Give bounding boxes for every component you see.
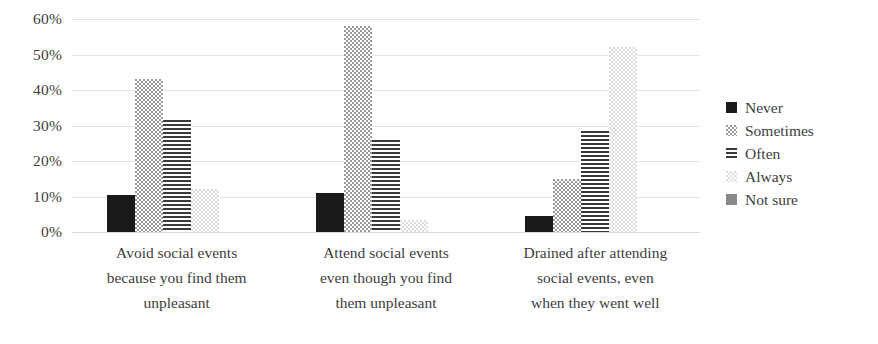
category-label-line: social events, even: [485, 265, 706, 290]
legend-item-sometimes[interactable]: Sometimes: [726, 119, 876, 142]
swatch-often-icon: [726, 148, 737, 159]
bar-sometimes[interactable]: [135, 79, 163, 232]
bar-always[interactable]: [191, 189, 219, 232]
legend-item-never[interactable]: Never: [726, 96, 876, 119]
plot-area: [72, 19, 700, 232]
y-axis-tick-label: 30%: [2, 118, 62, 133]
bar-group: [491, 19, 700, 232]
category-label-line: because you find them: [66, 265, 287, 290]
bar-groups: [72, 19, 700, 232]
legend-item-label: Often: [745, 145, 780, 162]
category-label: Drained after attendingsocial events, ev…: [485, 240, 706, 315]
y-axis-tick-label: 60%: [2, 11, 62, 26]
bar-chart: 60%50%40%30%20%10%0% Avoid social events…: [0, 0, 878, 344]
category-label-line: them unpleasant: [275, 290, 496, 315]
category-label-line: Attend social events: [275, 240, 496, 265]
swatch-always-icon: [726, 171, 737, 182]
category-label-line: Avoid social events: [66, 240, 287, 265]
bar-always[interactable]: [609, 47, 637, 232]
legend-item-always[interactable]: Always: [726, 165, 876, 188]
bar-group: [72, 19, 281, 232]
legend-item-often[interactable]: Often: [726, 142, 876, 165]
bar-never[interactable]: [107, 195, 135, 232]
category-label-line: when they went well: [485, 290, 706, 315]
category-label-line: Drained after attending: [485, 240, 706, 265]
category-label-line: even though you find: [275, 265, 496, 290]
y-axis-tick-label: 0%: [2, 224, 62, 239]
bar-sometimes[interactable]: [553, 179, 581, 232]
bar-always[interactable]: [400, 220, 428, 232]
category-label: Attend social eventseven though you find…: [275, 240, 496, 315]
bar-often[interactable]: [581, 131, 609, 232]
y-axis-tick-label: 20%: [2, 153, 62, 168]
legend-item-label: Not sure: [745, 191, 798, 208]
swatch-not-sure-icon: [726, 194, 737, 205]
swatch-sometimes-icon: [726, 125, 737, 136]
category-label-line: unpleasant: [66, 290, 287, 315]
bar-often[interactable]: [163, 120, 191, 232]
legend-item-label: Always: [745, 168, 792, 185]
y-axis-tick-label: 50%: [2, 47, 62, 62]
y-axis-tick-label: 10%: [2, 189, 62, 204]
swatch-never-icon: [726, 102, 737, 113]
bar-group: [281, 19, 490, 232]
y-axis-tick-label: 40%: [2, 82, 62, 97]
gridline: [72, 232, 700, 233]
bar-sometimes[interactable]: [344, 26, 372, 232]
chart-legend: NeverSometimesOftenAlwaysNot sure: [726, 96, 876, 211]
category-label: Avoid social eventsbecause you find them…: [66, 240, 287, 315]
bar-never[interactable]: [316, 193, 344, 232]
category-axis-labels: Avoid social eventsbecause you find them…: [72, 240, 700, 340]
legend-item-label: Sometimes: [745, 122, 814, 139]
bar-often[interactable]: [372, 140, 400, 232]
legend-item-label: Never: [745, 99, 783, 116]
bar-never[interactable]: [525, 216, 553, 232]
y-axis: 60%50%40%30%20%10%0%: [0, 0, 70, 250]
legend-item-not-sure[interactable]: Not sure: [726, 188, 876, 211]
